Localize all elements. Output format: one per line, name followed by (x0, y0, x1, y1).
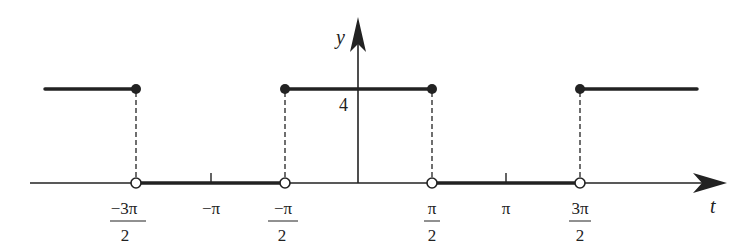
svg-text:π: π (428, 199, 437, 218)
y-tick-label-4: 4 (339, 95, 348, 115)
svg-text:−3π: −3π (111, 199, 138, 218)
x-axis-label: t (710, 195, 716, 217)
svg-text:2: 2 (121, 226, 130, 245)
tick-label-neg-3pi-2: −3π 2 (110, 199, 146, 245)
tick-label-neg-pi-2: −π 2 (268, 199, 298, 245)
square-wave-plot: y t 4 −3π 2 −π −π 2 π 2 π 3π 2 (0, 0, 748, 252)
svg-text:π: π (502, 199, 511, 218)
tick-label-neg-pi: −π (202, 199, 221, 218)
svg-text:2: 2 (576, 226, 585, 245)
svg-text:−π: −π (274, 199, 293, 218)
svg-text:2: 2 (428, 226, 437, 245)
tick-label-pi-2: π 2 (424, 199, 440, 245)
tick-label-3pi-2: 3π 2 (569, 199, 591, 245)
svg-text:2: 2 (278, 226, 287, 245)
tick-label-pi: π (502, 199, 511, 218)
y-axis-label: y (334, 26, 345, 49)
svg-text:3π: 3π (571, 199, 589, 218)
svg-text:−π: −π (202, 199, 221, 218)
